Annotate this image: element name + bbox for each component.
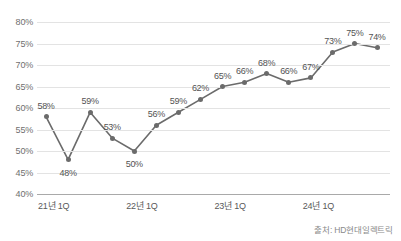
data-point-marker <box>176 110 181 115</box>
y-axis-tick-label: 70% <box>0 60 33 70</box>
data-point-marker <box>154 123 159 128</box>
gridline <box>37 108 390 109</box>
x-axis-line <box>37 194 390 195</box>
gridline <box>37 87 390 88</box>
data-point-marker <box>375 45 380 50</box>
data-point-label: 58% <box>37 101 54 111</box>
data-point-label: 67% <box>302 62 319 72</box>
data-point-label: 48% <box>60 168 77 178</box>
y-axis-tick-label: 45% <box>0 168 33 178</box>
data-point-label: 59% <box>170 96 187 106</box>
gridline <box>37 173 390 174</box>
data-point-label: 62% <box>192 83 209 93</box>
y-axis-tick-label: 65% <box>0 82 33 92</box>
data-point-label: 66% <box>280 66 297 76</box>
data-point-marker <box>132 149 137 154</box>
data-point-label: 68% <box>258 58 275 68</box>
data-point-marker <box>242 80 247 85</box>
data-point-label: 75% <box>346 28 363 38</box>
x-axis-tick-label: 21년 1Q <box>38 199 69 212</box>
data-point-marker <box>66 157 71 162</box>
y-axis-tick-label: 40% <box>0 189 33 199</box>
plot-area <box>37 22 390 194</box>
data-point-marker <box>88 110 93 115</box>
gridline <box>37 130 390 131</box>
data-point-marker <box>44 114 49 119</box>
data-point-label: 59% <box>82 96 99 106</box>
data-point-label: 74% <box>368 32 385 42</box>
data-point-label: 56% <box>148 109 165 119</box>
x-axis-tick-label: 22년 1Q <box>126 199 157 212</box>
gridline <box>37 65 390 66</box>
y-axis-tick-label: 50% <box>0 146 33 156</box>
data-point-marker <box>198 97 203 102</box>
data-point-marker <box>220 84 225 89</box>
data-point-marker <box>110 136 115 141</box>
x-axis-tick-label: 24년 1Q <box>303 199 334 212</box>
y-axis-tick-label: 80% <box>0 17 33 27</box>
gridline <box>37 151 390 152</box>
data-point-label: 50% <box>126 159 143 169</box>
x-axis-tick-label: 23년 1Q <box>215 199 246 212</box>
data-point-label: 66% <box>236 66 253 76</box>
data-point-marker <box>286 80 291 85</box>
y-axis-tick-label: 75% <box>0 39 33 49</box>
line-chart: 출처: HD현대일렉트릭 80%75%70%65%60%55%50%45%40%… <box>0 0 401 241</box>
data-point-label: 73% <box>324 36 341 46</box>
data-point-label: 53% <box>104 122 121 132</box>
y-axis-tick-label: 55% <box>0 125 33 135</box>
source-note: 출처: HD현대일렉트릭 <box>314 223 393 235</box>
y-axis-tick-label: 60% <box>0 103 33 113</box>
gridline <box>37 22 390 23</box>
data-point-label: 65% <box>214 71 231 81</box>
